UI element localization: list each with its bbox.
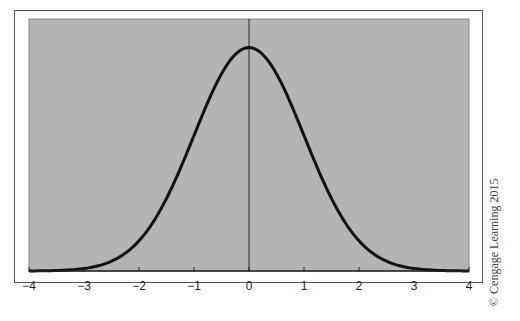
x-tick-label: 3 [411, 279, 418, 293]
copyright-credit: © Cengage Learning 2015 [487, 179, 502, 306]
x-tick-label: 2 [356, 279, 363, 293]
x-tick-label: 1 [301, 279, 308, 293]
normal-curve-chart: −4−3−2−101234 [0, 0, 520, 321]
x-tick-label: −3 [77, 279, 91, 293]
x-tick-label: 4 [466, 279, 473, 293]
x-tick-label: −2 [132, 279, 146, 293]
x-tick-label: −4 [22, 279, 36, 293]
x-tick-label: −1 [187, 279, 201, 293]
x-tick-label: 0 [246, 279, 253, 293]
